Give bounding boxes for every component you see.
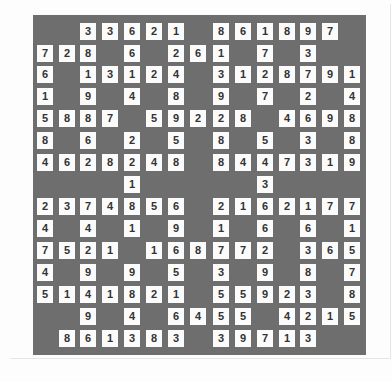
- grid-cell[interactable]: 3: [300, 154, 316, 171]
- grid-cell[interactable]: 5: [37, 286, 53, 303]
- grid-cell[interactable]: 8: [279, 66, 295, 83]
- grid-cell[interactable]: 6: [80, 330, 96, 347]
- grid-cell[interactable]: 4: [235, 154, 251, 171]
- grid-cell[interactable]: 8: [124, 198, 140, 215]
- grid-cell[interactable]: 9: [168, 220, 184, 237]
- grid-cell[interactable]: 8: [213, 132, 229, 149]
- grid-cell[interactable]: 9: [80, 308, 96, 325]
- grid-cell[interactable]: 1: [213, 45, 229, 62]
- grid-cell[interactable]: 7: [322, 198, 338, 215]
- grid-cell[interactable]: 9: [300, 23, 316, 40]
- grid-cell[interactable]: 1: [124, 176, 140, 193]
- grid-cell[interactable]: 5: [235, 286, 251, 303]
- grid-cell[interactable]: 1: [235, 66, 251, 83]
- grid-cell[interactable]: 7: [300, 66, 316, 83]
- grid-cell[interactable]: 8: [190, 242, 206, 259]
- grid-cell[interactable]: 6: [190, 45, 206, 62]
- grid-cell[interactable]: 2: [124, 132, 140, 149]
- grid-cell[interactable]: 3: [300, 330, 316, 347]
- grid-cell[interactable]: 8: [59, 330, 75, 347]
- grid-cell[interactable]: 5: [213, 286, 229, 303]
- grid-cell[interactable]: 6: [124, 23, 140, 40]
- grid-cell[interactable]: 1: [344, 220, 360, 237]
- grid-cell[interactable]: 5: [146, 198, 162, 215]
- grid-cell[interactable]: 8: [80, 45, 96, 62]
- grid-cell[interactable]: 1: [168, 286, 184, 303]
- grid-cell[interactable]: 7: [257, 88, 273, 105]
- grid-cell[interactable]: 7: [257, 45, 273, 62]
- grid-cell[interactable]: 4: [37, 220, 53, 237]
- grid-cell[interactable]: 8: [213, 23, 229, 40]
- grid-cell[interactable]: 7: [37, 45, 53, 62]
- grid-cell[interactable]: 5: [168, 132, 184, 149]
- grid-cell[interactable]: 3: [102, 66, 118, 83]
- grid-cell[interactable]: 4: [168, 66, 184, 83]
- grid-cell[interactable]: 1: [124, 66, 140, 83]
- grid-cell[interactable]: 8: [59, 110, 75, 127]
- grid-cell[interactable]: 7: [344, 198, 360, 215]
- grid-cell[interactable]: 8: [279, 23, 295, 40]
- grid-cell[interactable]: 6: [168, 242, 184, 259]
- grid-cell[interactable]: 7: [235, 242, 251, 259]
- grid-cell[interactable]: 1: [37, 88, 53, 105]
- grid-cell[interactable]: 5: [168, 264, 184, 281]
- grid-cell[interactable]: 9: [322, 66, 338, 83]
- grid-cell[interactable]: 5: [257, 132, 273, 149]
- grid-cell[interactable]: 5: [37, 110, 53, 127]
- grid-cell[interactable]: 8: [344, 132, 360, 149]
- grid-cell[interactable]: 3: [300, 242, 316, 259]
- grid-cell[interactable]: 1: [279, 330, 295, 347]
- grid-cell[interactable]: 1: [322, 154, 338, 171]
- grid-cell[interactable]: 9: [257, 264, 273, 281]
- grid-cell[interactable]: 2: [257, 66, 273, 83]
- grid-cell[interactable]: 4: [279, 110, 295, 127]
- grid-cell[interactable]: 4: [190, 308, 206, 325]
- grid-cell[interactable]: 5: [146, 110, 162, 127]
- grid-cell[interactable]: 8: [146, 330, 162, 347]
- grid-cell[interactable]: 5: [59, 242, 75, 259]
- grid-cell[interactable]: 1: [322, 308, 338, 325]
- grid-cell[interactable]: 5: [344, 308, 360, 325]
- grid-cell[interactable]: 6: [235, 23, 251, 40]
- grid-cell[interactable]: 7: [37, 242, 53, 259]
- grid-cell[interactable]: 6: [168, 198, 184, 215]
- grid-cell[interactable]: 1: [59, 286, 75, 303]
- grid-cell[interactable]: 9: [80, 264, 96, 281]
- grid-cell[interactable]: 2: [146, 66, 162, 83]
- grid-cell[interactable]: 2: [146, 23, 162, 40]
- grid-cell[interactable]: 2: [300, 88, 316, 105]
- grid-cell[interactable]: 1: [124, 220, 140, 237]
- grid-cell[interactable]: 1: [235, 198, 251, 215]
- grid-cell[interactable]: 4: [37, 154, 53, 171]
- grid-cell[interactable]: 7: [322, 23, 338, 40]
- grid-cell[interactable]: 4: [257, 154, 273, 171]
- grid-cell[interactable]: 8: [37, 132, 53, 149]
- grid-cell[interactable]: 6: [257, 198, 273, 215]
- grid-cell[interactable]: 2: [213, 198, 229, 215]
- grid-cell[interactable]: 9: [257, 286, 273, 303]
- grid-cell[interactable]: 9: [213, 88, 229, 105]
- grid-cell[interactable]: 2: [59, 45, 75, 62]
- grid-cell[interactable]: 6: [322, 242, 338, 259]
- grid-cell[interactable]: 4: [344, 88, 360, 105]
- grid-cell[interactable]: 3: [300, 45, 316, 62]
- grid-cell[interactable]: 1: [80, 66, 96, 83]
- grid-cell[interactable]: 3: [124, 330, 140, 347]
- grid-cell[interactable]: 2: [190, 110, 206, 127]
- grid-cell[interactable]: 4: [146, 154, 162, 171]
- grid-cell[interactable]: 4: [37, 264, 53, 281]
- grid-cell[interactable]: 6: [300, 110, 316, 127]
- grid-cell[interactable]: 7: [102, 110, 118, 127]
- grid-cell[interactable]: 6: [257, 220, 273, 237]
- grid-cell[interactable]: 5: [213, 308, 229, 325]
- grid-cell[interactable]: 8: [300, 264, 316, 281]
- grid-cell[interactable]: 8: [344, 110, 360, 127]
- grid-cell[interactable]: 1: [102, 286, 118, 303]
- grid-cell[interactable]: 3: [80, 23, 96, 40]
- grid-cell[interactable]: 7: [257, 330, 273, 347]
- grid-cell[interactable]: 6: [80, 132, 96, 149]
- grid-cell[interactable]: 2: [168, 45, 184, 62]
- grid-cell[interactable]: 8: [168, 88, 184, 105]
- grid-cell[interactable]: 6: [300, 220, 316, 237]
- grid-cell[interactable]: 3: [257, 176, 273, 193]
